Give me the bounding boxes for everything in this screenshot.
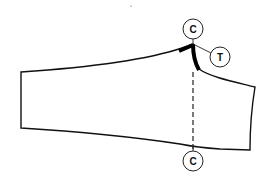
marker-label: C (189, 156, 196, 167)
marker-label: C (189, 24, 196, 35)
thick-crotch-segment (193, 44, 199, 70)
thick-waist-segment (179, 45, 193, 51)
leader-t (193, 44, 211, 53)
marker-t: T (210, 47, 230, 67)
marker-label: T (217, 52, 223, 63)
marker-bottom-c: C (183, 151, 203, 171)
speck-mark (131, 6, 132, 7)
pattern-diagram: C T C (0, 0, 268, 181)
marker-top-c: C (183, 19, 203, 39)
